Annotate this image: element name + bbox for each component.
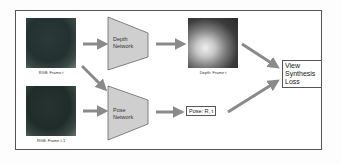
arrow-pose-output-to-loss bbox=[228, 82, 276, 112]
depth-network-label-line2: Network bbox=[113, 43, 133, 49]
pose-network-label-line1: Pose bbox=[113, 107, 126, 113]
pose-network-label-line2: Network bbox=[113, 114, 133, 120]
view-synthesis-loss-box: View Synthesis Loss bbox=[282, 60, 322, 88]
loss-label-line3: Loss bbox=[285, 78, 319, 86]
depth-network-label-line1: Depth bbox=[113, 36, 128, 42]
pose-network-shape bbox=[108, 86, 148, 140]
pose-output-label: Pose: R, t bbox=[189, 108, 213, 114]
pose-output-box: Pose: R, t bbox=[186, 106, 216, 116]
loss-label-line2: Synthesis bbox=[285, 70, 319, 78]
arrow-depth-output-to-loss bbox=[242, 44, 276, 66]
loss-label-line1: View bbox=[285, 62, 319, 70]
arrow-rgb-t-to-pose-net bbox=[82, 66, 104, 88]
